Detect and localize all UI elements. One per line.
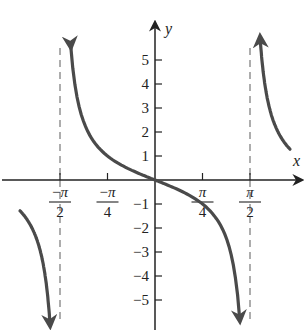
- y-axis-label: y: [163, 20, 173, 38]
- svg-text:4: 4: [104, 204, 112, 220]
- svg-text:−π: −π: [100, 184, 116, 200]
- y-tick-label: −3: [133, 244, 149, 260]
- svg-text:π: π: [199, 184, 207, 200]
- y-tick-label: −4: [133, 268, 149, 284]
- y-tick-label: −5: [133, 292, 149, 308]
- x-axis-label: x: [292, 152, 300, 169]
- svg-text:2: 2: [56, 204, 64, 220]
- svg-text:−π: −π: [52, 184, 68, 200]
- y-tick-label: 5: [142, 52, 150, 68]
- y-tick-label: −1: [133, 196, 149, 212]
- svg-text:2: 2: [246, 204, 254, 220]
- curve-left-branch: [20, 211, 50, 324]
- y-tick-label: 1: [142, 148, 150, 164]
- x-tick-label: −π2: [49, 184, 71, 220]
- curve-right-branch: [260, 38, 290, 149]
- x-tick-label: −π4: [96, 184, 118, 220]
- y-tick-label: 4: [142, 76, 150, 92]
- x-tick-label: π2: [239, 184, 261, 220]
- y-tick-label: −2: [133, 220, 149, 236]
- y-tick-label: 2: [142, 124, 150, 140]
- y-tick-label: 3: [142, 100, 150, 116]
- svg-text:π: π: [246, 184, 254, 200]
- tangent-graph: 54321−1−2−3−4−5−π2−π4π4π2 x y: [0, 0, 306, 333]
